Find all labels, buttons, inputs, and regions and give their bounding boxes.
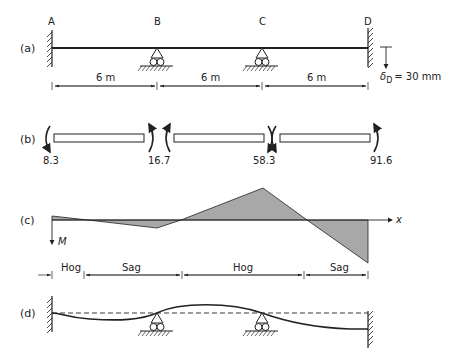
fixed-support-d-deflected-icon — [368, 311, 373, 348]
region-sag-2: Sag — [330, 262, 349, 273]
member-ab — [54, 134, 144, 142]
panel-a: (a) A B C D — [20, 16, 441, 90]
moment-d-value: 91.6 — [370, 155, 392, 166]
bending-moment-region-3 — [181, 188, 307, 220]
panel-d: (d) — [20, 296, 373, 348]
moment-arrow-c-right-icon — [272, 126, 276, 152]
moment-arrow-d-icon — [374, 124, 378, 152]
moment-b-value: 16.7 — [148, 155, 170, 166]
node-b-label: B — [154, 16, 161, 27]
panel-a-label: (a) — [20, 42, 35, 55]
axis-x-label: x — [395, 214, 402, 225]
panel-c: (c) x M Hog Sag Hog Sag — [20, 188, 402, 279]
span-bc-label: 6 m — [201, 72, 220, 83]
roller-support-c-icon — [243, 48, 278, 71]
moment-arrow-a-icon — [46, 126, 50, 152]
span-dimensions — [52, 82, 368, 90]
moment-arrow-b-right-icon — [166, 124, 170, 152]
bending-moment-region-2 — [88, 220, 181, 228]
roller-support-b-icon — [138, 48, 173, 71]
panel-b: (b) 8.3 16.7 58.3 91.6 — [20, 124, 392, 166]
moment-a-value: 8.3 — [43, 155, 59, 166]
region-sag-1: Sag — [122, 262, 141, 273]
axis-m-label: M — [58, 236, 67, 247]
moment-arrow-b-left-icon — [149, 124, 153, 152]
settlement-arrow-icon — [380, 47, 392, 68]
region-hog-1: Hog — [61, 262, 81, 273]
settlement-value: = 30 mm — [394, 71, 441, 82]
settlement-label: δD= 30 mm — [380, 71, 441, 85]
node-a-label: A — [48, 16, 55, 27]
beam-analysis-figure: (a) A B C D — [0, 0, 455, 363]
settlement-subscript: D — [386, 76, 392, 85]
fixed-support-a-deflected-icon — [47, 296, 52, 333]
member-bc — [174, 134, 264, 142]
node-c-label: C — [259, 16, 266, 27]
fixed-support-d-icon — [368, 28, 373, 68]
span-ab-label: 6 m — [96, 72, 115, 83]
member-cd — [280, 134, 370, 142]
panel-b-label: (b) — [20, 133, 36, 146]
region-hog-2: Hog — [233, 262, 253, 273]
hog-sag-dimensions — [38, 271, 368, 279]
node-d-label: D — [364, 16, 372, 27]
span-cd-label: 6 m — [307, 72, 326, 83]
panel-d-label: (d) — [20, 307, 36, 320]
bending-moment-region-1 — [52, 216, 88, 220]
deflected-shape — [52, 305, 368, 329]
fixed-support-a-icon — [47, 30, 52, 67]
moment-c-value: 58.3 — [253, 155, 275, 166]
panel-c-label: (c) — [20, 214, 35, 227]
bending-moment-region-4 — [307, 220, 368, 263]
